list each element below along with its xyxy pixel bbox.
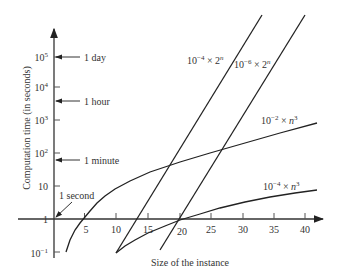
svg-text:40: 40	[300, 224, 310, 235]
svg-text:1: 1	[43, 214, 48, 225]
y-axis-label: Computation time (in seconds)	[21, 66, 33, 190]
svg-text:1 second: 1 second	[59, 190, 94, 201]
x-axis-label: Size of the instance	[151, 257, 230, 268]
svg-text:20: 20	[177, 226, 187, 237]
svg-text:5: 5	[84, 224, 89, 235]
series-labels: 10−4 × 2n 10−6 × 2n 10−2 × n3 10−4 × n3	[187, 54, 300, 192]
svg-text:103: 103	[35, 114, 49, 126]
svg-text:1 hour: 1 hour	[84, 96, 111, 107]
svg-text:10: 10	[38, 181, 48, 192]
svg-text:1 minute: 1 minute	[84, 155, 120, 166]
svg-text:30: 30	[238, 224, 248, 235]
svg-text:10−4 × n3: 10−4 × n3	[263, 180, 300, 192]
series-1e-4-n3	[116, 190, 317, 253]
svg-text:10−4 × 2n: 10−4 × 2n	[187, 54, 224, 66]
svg-text:10−2 × n3: 10−2 × n3	[261, 114, 298, 126]
svg-text:10−1: 10−1	[31, 247, 49, 259]
svg-text:102: 102	[35, 147, 49, 159]
x-tick-labels: 5 10 15 20 25 30 35 40	[84, 224, 311, 237]
svg-text:1 day: 1 day	[84, 52, 106, 63]
complexity-chart: 10−1 1 10 102 103 104 105 5 10 15 20 25 …	[0, 0, 338, 280]
svg-text:10−6 × 2n: 10−6 × 2n	[234, 58, 271, 70]
svg-text:10: 10	[111, 224, 121, 235]
svg-text:25: 25	[206, 224, 216, 235]
series-lines	[66, 15, 317, 253]
svg-text:105: 105	[35, 51, 49, 63]
svg-text:104: 104	[35, 81, 49, 93]
svg-text:35: 35	[269, 224, 279, 235]
y-tick-labels: 10−1 1 10 102 103 104 105	[31, 51, 49, 259]
y-ticks	[54, 57, 60, 252]
